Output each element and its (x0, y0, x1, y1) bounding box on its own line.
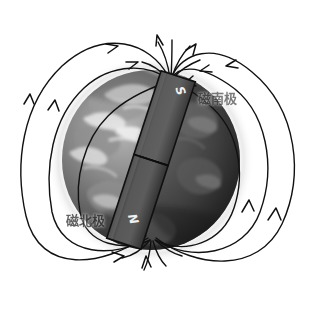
magnet-south-half (134, 71, 195, 166)
magnet-body-group (107, 71, 196, 250)
magnetic-field-diagram: S N 磁南极 磁北极 (0, 0, 319, 320)
bar-magnet (0, 0, 319, 320)
magnet-north-half (107, 154, 168, 249)
